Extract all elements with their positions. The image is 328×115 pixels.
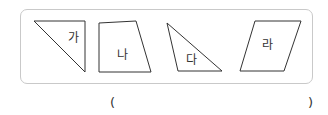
shape-ga-triangle (34, 21, 85, 72)
shape-label-da: 다 (186, 54, 197, 66)
shape-label-na: 나 (117, 49, 128, 61)
answer-blank[interactable] (120, 96, 305, 110)
shape-label-ra: 라 (262, 39, 273, 51)
shape-na-quadrilateral (99, 21, 151, 72)
shape-label-ga: 가 (68, 32, 79, 44)
answer-open-paren: ( (110, 96, 115, 109)
answer-close-paren: ) (308, 96, 313, 109)
